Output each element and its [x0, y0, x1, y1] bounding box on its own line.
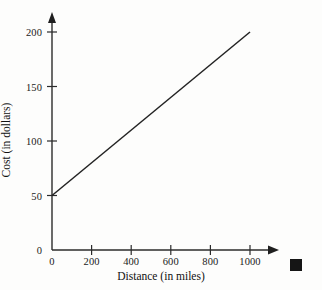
x-axis-arrowhead: [268, 246, 279, 255]
chart-plot-area: [0, 0, 322, 290]
x-axis-title: Distance (in miles): [117, 270, 205, 282]
y-tick-label-50: 50: [8, 190, 42, 201]
y-tick-label-100: 100: [8, 136, 42, 147]
x-tick-label-800: 800: [202, 256, 218, 267]
x-tick-label-0: 0: [49, 256, 54, 267]
x-tick-label-200: 200: [84, 256, 100, 267]
data-line-series-0: [52, 32, 250, 196]
x-tick-label-1000: 1000: [239, 256, 260, 267]
y-axis-arrowhead: [48, 12, 56, 23]
x-tick-label-600: 600: [163, 256, 179, 267]
cost-vs-distance-chart: 0 50 100 150 200 0 200 400 600 800 1000 …: [0, 0, 322, 290]
y-axis-title: Cost (in dollars): [0, 103, 12, 178]
corner-square-marker: [290, 259, 302, 271]
y-tick-label-200: 200: [8, 27, 42, 38]
x-tick-label-400: 400: [123, 256, 139, 267]
y-tick-label-150: 150: [8, 81, 42, 92]
y-tick-label-0: 0: [8, 245, 42, 256]
